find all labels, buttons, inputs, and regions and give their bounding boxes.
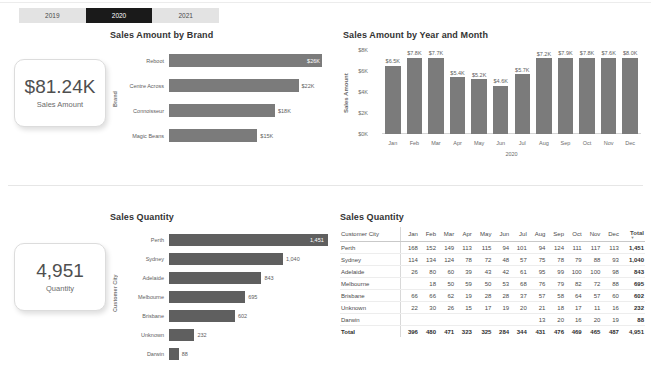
column-bar[interactable] xyxy=(428,58,444,135)
bar-fill[interactable] xyxy=(169,104,275,117)
column-bar[interactable] xyxy=(515,74,531,134)
matrix-col-header-month[interactable]: Dec xyxy=(601,227,620,242)
matrix-col-header-month[interactable]: Jun xyxy=(492,227,510,242)
matrix-cell-value: 57 xyxy=(528,290,547,302)
top-divider xyxy=(0,2,651,3)
column-bar-group[interactable]: $7.7K xyxy=(425,50,447,134)
column-bar-group[interactable]: $7.8K xyxy=(404,50,426,134)
bar-track: 695 xyxy=(169,291,328,303)
matrix-cell-value: 76 xyxy=(528,278,547,290)
matrix-row[interactable]: Unknown223026151719202118171116232 xyxy=(340,302,645,314)
column-bar[interactable] xyxy=(385,66,401,134)
column-bar[interactable] xyxy=(536,58,552,134)
x-axis-tick: Apr xyxy=(447,140,469,146)
bar-row-brand[interactable]: Magic Beans$15K xyxy=(110,129,328,142)
column-bar-group[interactable]: $8.0K xyxy=(619,50,641,134)
column-bar[interactable] xyxy=(579,58,595,135)
matrix-col-header-month[interactable]: May xyxy=(473,227,493,242)
bar-category-label: Connoisseur xyxy=(110,108,169,114)
slicer-option-2020[interactable]: 2020 xyxy=(86,8,153,23)
chart-sales-amount-by-year-and-month[interactable]: Sales Amount by Year and Month Sales Amo… xyxy=(340,30,645,158)
matrix-col-header-month[interactable]: Sep xyxy=(546,227,565,242)
matrix-row[interactable]: Brisbane666662192828375758645760602 xyxy=(340,290,645,302)
bar-fill[interactable] xyxy=(169,329,194,341)
column-bar-group[interactable]: $7.2K xyxy=(533,50,555,134)
column-bar[interactable] xyxy=(493,86,509,134)
bar-row-city[interactable]: Melbourne695 xyxy=(110,291,328,303)
y-axis-tick: $0K xyxy=(342,131,368,137)
chart-sales-quantity-by-city[interactable]: Sales Quantity Customer City Perth1,451S… xyxy=(110,212,328,360)
bar-row-brand[interactable]: Reboot$26K xyxy=(110,54,328,67)
matrix-col-header-month[interactable]: Apr xyxy=(455,227,473,242)
matrix-col-header-month[interactable]: Oct xyxy=(565,227,583,242)
matrix-col-header-month[interactable]: Jan xyxy=(401,227,419,242)
bar-row-city[interactable]: Adelaide843 xyxy=(110,272,328,284)
column-bar-group[interactable]: $5.7K xyxy=(512,50,534,134)
column-bar-group[interactable]: $7.9K xyxy=(555,50,577,134)
matrix-cell-value: 19 xyxy=(601,314,620,326)
column-bar-group[interactable]: $7.6K xyxy=(598,50,620,134)
matrix-table[interactable]: Customer CityJanFebMarAprMayJunJulAugSep… xyxy=(340,227,645,337)
bar-fill[interactable] xyxy=(169,291,245,303)
slicer-option-2021[interactable]: 2021 xyxy=(152,8,219,23)
x-axis-tick: Dec xyxy=(619,140,641,146)
bar-row-city[interactable]: Sydney1,040 xyxy=(110,253,328,265)
kpi-card-sales-amount[interactable]: $81.24K Sales Amount xyxy=(14,59,106,127)
matrix-cell-city: Darwin xyxy=(340,314,401,326)
slicer-option-2019[interactable]: 2019 xyxy=(19,8,86,23)
chart-sales-amount-by-brand[interactable]: Sales Amount by Brand Brand Reboot$26KCe… xyxy=(110,30,328,155)
kpi-card-quantity[interactable]: 4,951 Quantity xyxy=(14,243,106,311)
matrix-sales-quantity[interactable]: Sales Quantity Customer CityJanFebMarApr… xyxy=(340,212,645,337)
matrix-cell-value: 94 xyxy=(492,242,510,254)
column-bar-group[interactable]: $5.4K xyxy=(447,50,469,134)
matrix-col-header-month[interactable]: Mar xyxy=(437,227,455,242)
bar-row-city[interactable]: Perth1,451 xyxy=(110,234,328,246)
x-axis-tick: Nov xyxy=(598,140,620,146)
column-bar[interactable] xyxy=(601,58,617,135)
year-slicer[interactable]: 2019 2020 2021 xyxy=(19,8,219,23)
bar-fill[interactable] xyxy=(169,310,235,322)
bar-value-label: 232 xyxy=(197,332,206,338)
column-value-label: $7.8K xyxy=(580,50,594,56)
column-bar[interactable] xyxy=(450,77,466,134)
matrix-col-header-city[interactable]: Customer City xyxy=(340,227,401,242)
matrix-row[interactable]: Adelaide26806039434261959910010098843 xyxy=(340,266,645,278)
matrix-row[interactable]: Melbourne1850595053687679827288695 xyxy=(340,278,645,290)
matrix-col-header-month[interactable]: Nov xyxy=(583,227,602,242)
column-bar[interactable] xyxy=(471,79,487,134)
column-bar[interactable] xyxy=(558,58,574,135)
matrix-col-header-month[interactable]: Aug xyxy=(528,227,547,242)
matrix-row[interactable]: Darwin132016201988 xyxy=(340,314,645,326)
bar-row-brand[interactable]: Connoisseur$18K xyxy=(110,104,328,117)
matrix-row[interactable]: Sydney1141341247872485775787988931,040 xyxy=(340,254,645,266)
column-bar-group[interactable]: $7.8K xyxy=(576,50,598,134)
bar-fill[interactable] xyxy=(169,234,328,246)
matrix-cell-value: 22 xyxy=(401,302,419,314)
column-bar[interactable] xyxy=(622,58,638,135)
bar-fill[interactable] xyxy=(169,272,261,284)
bar-fill[interactable] xyxy=(169,54,322,67)
matrix-cell-value: 53 xyxy=(492,278,510,290)
column-bar-group[interactable]: $6.5K xyxy=(382,50,404,134)
bar-row-city[interactable]: Unknown232 xyxy=(110,329,328,341)
matrix-col-header-month[interactable]: Feb xyxy=(419,227,437,242)
kpi-value-sales-amount: $81.24K xyxy=(25,77,96,98)
kpi-value-quantity: 4,951 xyxy=(36,261,84,282)
bar-row-city[interactable]: Brisbane602 xyxy=(110,310,328,322)
column-bar-group[interactable]: $5.2K xyxy=(468,50,490,134)
matrix-row[interactable]: Perth16815214911311594101941241111171131… xyxy=(340,242,645,254)
column-value-label: $7.8K xyxy=(407,50,421,56)
bar-row-city[interactable]: Darwin88 xyxy=(110,348,328,360)
matrix-col-header-total[interactable]: Total▼ xyxy=(620,227,645,242)
bar-fill[interactable] xyxy=(169,129,257,142)
bar-value-label: 695 xyxy=(248,294,257,300)
bar-fill[interactable] xyxy=(169,253,283,265)
column-bar-group[interactable]: $4.6K xyxy=(490,50,512,134)
matrix-total-value: 476 xyxy=(546,326,565,338)
matrix-col-header-month[interactable]: Jul xyxy=(510,227,528,242)
bar-fill[interactable] xyxy=(169,79,299,92)
matrix-cell-value: 80 xyxy=(419,266,437,278)
bar-row-brand[interactable]: Centre Across$22K xyxy=(110,79,328,92)
bar-fill[interactable] xyxy=(169,348,179,360)
column-bar[interactable] xyxy=(407,58,423,135)
